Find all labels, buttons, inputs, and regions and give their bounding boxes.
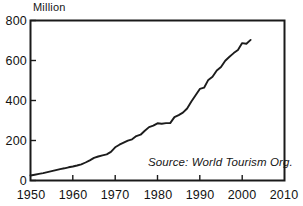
x-tick-label: 1970 — [101, 188, 130, 202]
x-tick-label: 1980 — [144, 188, 173, 202]
chart-plot-area: 800 600 400 200 0 1950 1960 1970 1980 19… — [0, 0, 303, 206]
source-annotation: Source: World Tourism Org. — [148, 156, 293, 168]
tourism-arrivals-chart: Million 800 600 400 200 0 — [0, 0, 303, 206]
y-axis-tick-labels: 800 600 400 200 0 — [6, 14, 27, 188]
y-tick-label: 0 — [20, 174, 27, 188]
x-axis-tick-labels: 1950 1960 1970 1980 1990 2000 2010 — [17, 188, 299, 202]
x-tick-label: 2010 — [270, 188, 299, 202]
y-tick-label: 600 — [6, 54, 27, 68]
x-tick-label: 2000 — [228, 188, 257, 202]
x-tick-label: 1990 — [186, 188, 215, 202]
x-tick-label: 1960 — [59, 188, 88, 202]
y-tick-label: 800 — [6, 14, 27, 28]
y-tick-label: 400 — [6, 94, 27, 108]
y-tick-label: 200 — [6, 134, 27, 148]
x-tick-label: 1950 — [17, 188, 46, 202]
